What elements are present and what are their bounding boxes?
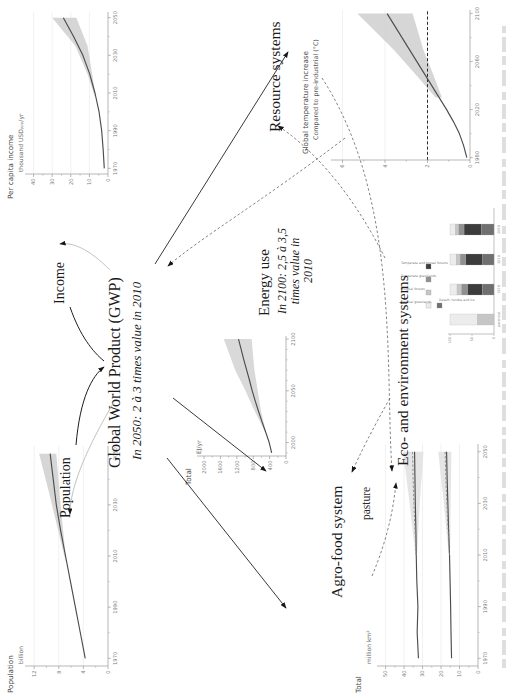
- svg-text:6: 6: [339, 165, 345, 168]
- figure-page: 0481219701990201020302050Populationbilli…: [0, 0, 510, 698]
- gwp-note: In 2050: 2 à 3 times value in 2010: [130, 282, 144, 460]
- svg-text:2050: 2050: [497, 225, 501, 234]
- agro-food-chart: 0102030405019701990201020302050Totalmill…: [350, 438, 504, 696]
- svg-text:2030: 2030: [112, 49, 118, 62]
- arrow-income-to-gwp: [70, 307, 104, 361]
- eco-environment-systems-heading: Eco- and environment systems: [394, 275, 411, 466]
- svg-text:Temperate and boreal forests: Temperate and boreal forests: [400, 261, 448, 265]
- svg-text:0: 0: [105, 179, 111, 182]
- svg-text:EJ/yr: EJ/yr: [195, 440, 203, 454]
- svg-text:2030: 2030: [482, 497, 488, 510]
- per-capita-income-chart: 01020304019701990201020302050Per capita …: [2, 4, 134, 202]
- svg-text:2000: 2000: [290, 436, 296, 449]
- resource-systems-heading: Resource systems: [266, 21, 283, 132]
- svg-text:billion: billion: [17, 646, 24, 664]
- svg-text:100: 100: [448, 336, 452, 344]
- svg-text:50: 50: [470, 336, 474, 341]
- svg-text:20: 20: [438, 671, 444, 678]
- energy-note-line3: 2010: [302, 206, 315, 336]
- population-node-label: Population: [58, 457, 73, 518]
- ecosystem-stacked-bar-chart: 050100potential197020102050Tropical gras…: [418, 202, 510, 348]
- gwp-title: Global World Product (GWP): [106, 277, 124, 468]
- svg-text:30: 30: [419, 671, 425, 678]
- income-node-label: Income: [52, 262, 67, 304]
- svg-text:1970: 1970: [112, 162, 118, 175]
- svg-text:1970: 1970: [482, 652, 488, 665]
- svg-text:2010: 2010: [112, 86, 118, 99]
- svg-text:1600: 1600: [217, 461, 223, 474]
- svg-text:1980: 1980: [474, 151, 480, 164]
- pasture-annotation: pasture: [360, 487, 373, 520]
- svg-text:1990: 1990: [112, 601, 118, 614]
- arrow-population-to-gwp: [76, 367, 104, 445]
- svg-text:Compared to pre-industrial (°C: Compared to pre-industrial (°C): [312, 39, 320, 140]
- svg-text:2050: 2050: [482, 445, 488, 458]
- svg-text:million km²: million km²: [365, 630, 372, 664]
- svg-text:10: 10: [456, 671, 462, 678]
- svg-text:0: 0: [283, 461, 289, 464]
- svg-text:2010: 2010: [497, 255, 501, 264]
- svg-text:1990: 1990: [482, 600, 488, 613]
- svg-text:2020: 2020: [474, 103, 480, 116]
- svg-text:2030: 2030: [112, 498, 118, 511]
- svg-text:0: 0: [475, 671, 481, 674]
- svg-text:20: 20: [68, 179, 74, 186]
- svg-text:50: 50: [382, 671, 388, 678]
- svg-text:Desert, tundra and ice: Desert, tundra and ice: [439, 298, 475, 302]
- svg-text:1990: 1990: [112, 124, 118, 137]
- svg-text:2: 2: [424, 165, 430, 168]
- svg-text:40: 40: [401, 671, 407, 678]
- svg-text:1970: 1970: [112, 652, 118, 665]
- svg-text:30: 30: [49, 179, 55, 186]
- rotated-systems-diagram: 0481219701990201020302050Populationbilli…: [0, 0, 510, 698]
- svg-text:12: 12: [31, 671, 37, 678]
- global-temperature-chart: 02461980202020602100Global temperature i…: [294, 4, 494, 184]
- svg-text:40: 40: [30, 179, 36, 186]
- svg-text:2100: 2100: [474, 7, 480, 20]
- svg-text:2050: 2050: [112, 11, 118, 24]
- svg-text:8: 8: [56, 671, 62, 674]
- svg-text:2010: 2010: [482, 548, 488, 561]
- svg-text:thousand USDPPP/yr: thousand USDPPP/yr: [17, 113, 25, 172]
- agro-food-system-heading: Agro-food system: [328, 486, 345, 598]
- svg-text:0: 0: [492, 336, 496, 339]
- energy-use-note: In 2100: 2,5 à 3,5 times value in 2010: [276, 206, 316, 336]
- svg-text:1200: 1200: [234, 461, 240, 474]
- energy-use-label: Energy use: [256, 249, 273, 316]
- svg-text:Population: Population: [6, 655, 15, 693]
- svg-text:Total: Total: [354, 676, 363, 694]
- svg-text:2060: 2060: [474, 55, 480, 68]
- svg-text:10: 10: [86, 179, 92, 186]
- svg-text:800: 800: [250, 461, 256, 471]
- svg-text:Per capita income: Per capita income: [6, 134, 15, 199]
- svg-text:2010: 2010: [112, 549, 118, 562]
- energy-use-chart: 0400800120016002000200020502100TotalEJ/y…: [180, 330, 314, 488]
- svg-text:4: 4: [80, 670, 86, 674]
- svg-text:Global temperature increase: Global temperature increase: [301, 50, 310, 154]
- svg-text:4: 4: [382, 164, 388, 168]
- svg-text:1970: 1970: [497, 285, 501, 294]
- svg-text:2050: 2050: [290, 384, 296, 397]
- svg-text:400: 400: [267, 461, 273, 471]
- arrow-gwp-to-income-feedback: [60, 244, 110, 270]
- svg-text:Total: Total: [184, 468, 193, 486]
- svg-text:2000: 2000: [201, 461, 207, 474]
- svg-text:potential: potential: [497, 312, 501, 327]
- svg-text:0: 0: [467, 165, 473, 168]
- svg-text:0: 0: [105, 671, 111, 674]
- clipped-caption-text: [502, 26, 506, 668]
